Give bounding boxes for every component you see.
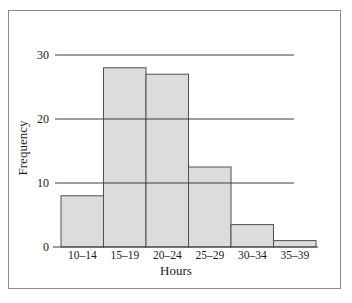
y-tick-label-20: 20 [37, 112, 49, 126]
histogram-bar-15-19 [104, 68, 147, 247]
histogram-svg: 010203010–1415–1920–2425–2930–3435–39 Fr… [0, 0, 352, 303]
x-tick-label-25-29: 25–29 [195, 249, 224, 261]
y-tick-label-0: 0 [43, 240, 49, 254]
x-tick-label-35-39: 35–39 [280, 249, 309, 261]
histogram-bar-35-39 [274, 241, 317, 247]
x-axis-title: Hours [160, 263, 192, 278]
x-tick-label-15-19: 15–19 [110, 249, 139, 261]
x-tick-label-20-24: 20–24 [153, 249, 182, 261]
x-tick-label-30-34: 30–34 [238, 249, 267, 261]
y-tick-label-30: 30 [37, 48, 49, 62]
histogram-bar-10-14 [61, 196, 104, 247]
y-axis-title: Frequency [15, 120, 30, 175]
y-tick-label-10: 10 [37, 176, 49, 190]
x-tick-label-10-14: 10–14 [68, 249, 97, 261]
histogram-bar-30-34 [231, 225, 274, 247]
histogram-bar-25-29 [189, 167, 232, 247]
histogram-figure: 010203010–1415–1920–2425–2930–3435–39 Fr… [0, 0, 352, 303]
histogram-bar-20-24 [146, 74, 189, 247]
